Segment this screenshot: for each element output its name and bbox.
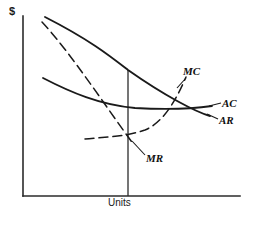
ac-leader-line bbox=[209, 103, 221, 106]
y-axis-label: $ bbox=[9, 6, 15, 17]
mc-curve-label: MC bbox=[183, 66, 200, 77]
mr-curve-label: MR bbox=[146, 153, 163, 164]
x-axis-label: Units bbox=[108, 198, 131, 208]
ac-curve-label: AC bbox=[222, 98, 237, 109]
label-leader-lines bbox=[132, 78, 221, 155]
economics-diagram-svg bbox=[0, 0, 256, 227]
mr-leader-line bbox=[132, 141, 145, 155]
ar-curve-label: AR bbox=[219, 115, 234, 126]
figure-canvas: $ Units MC AC AR MR bbox=[0, 0, 256, 227]
